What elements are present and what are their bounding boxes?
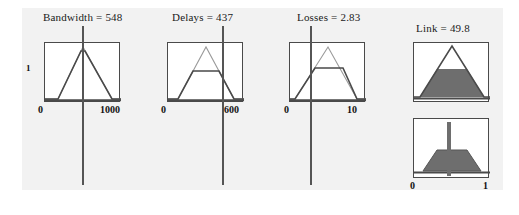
losses-clipped-curve — [290, 68, 366, 99]
bandwidth-xmin-label: 0 — [38, 104, 43, 115]
losses-title: Losses = 2.83 — [297, 11, 361, 23]
delays-membership-curve — [168, 47, 244, 99]
delays-title: Delays = 437 — [172, 11, 233, 23]
link-rule-output-svg — [414, 43, 490, 103]
losses-mf-svg — [290, 43, 366, 103]
losses-xmin-label: 0 — [284, 104, 289, 115]
delays-plot[interactable] — [167, 42, 243, 102]
link-title: Link = 49.8 — [416, 22, 470, 34]
losses-input-indicator-line[interactable] — [310, 26, 312, 185]
losses-membership-curve — [290, 47, 366, 99]
link-defuzzified-centroid-line[interactable] — [447, 122, 451, 176]
delays-xmax-label: 600 — [224, 104, 239, 115]
figure-root: 1 Bandwidth = 548 0 1000 Delays = 437 0 … — [0, 0, 519, 215]
bandwidth-input-indicator-line[interactable] — [82, 26, 84, 185]
link-xmin-label: 0 — [410, 180, 415, 191]
delays-clipped-curve — [168, 71, 244, 99]
y-axis-label-1: 1 — [26, 63, 31, 73]
link-aggregate-plot[interactable] — [413, 118, 489, 178]
bandwidth-xmax-label: 1000 — [100, 104, 120, 115]
delays-mf-svg — [168, 43, 244, 103]
losses-xmax-label: 10 — [347, 104, 357, 115]
link-rule-output-plot[interactable] — [413, 42, 489, 102]
link-xmax-label: 1 — [483, 180, 488, 191]
bandwidth-title: Bandwidth = 548 — [43, 11, 122, 23]
link-aggregate-svg — [414, 119, 490, 179]
link-aggregated-fill — [423, 150, 481, 171]
delays-xmin-label: 0 — [161, 104, 166, 115]
losses-plot[interactable] — [289, 42, 365, 102]
